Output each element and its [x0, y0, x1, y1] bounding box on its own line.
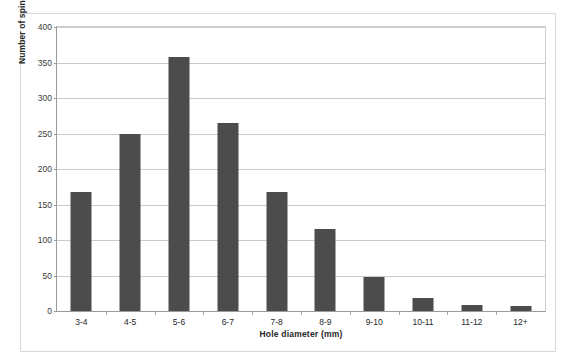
x-tick-label: 10-11: [412, 317, 433, 327]
x-tick-mark: [496, 311, 497, 315]
bar: [168, 57, 189, 311]
bar: [71, 192, 92, 311]
bar: [461, 305, 482, 311]
x-tick-label: 12+: [513, 317, 527, 327]
bar: [412, 298, 433, 311]
bar-slot: 11-12: [447, 27, 496, 311]
bar: [510, 306, 531, 311]
x-tick-mark: [350, 311, 351, 315]
x-axis-title: Hole diameter (mm): [56, 329, 546, 339]
y-tick-label-200: 200: [38, 164, 52, 174]
x-tick-mark: [203, 311, 204, 315]
y-tick-mark-0: [54, 311, 57, 312]
y-tick-label-150: 150: [38, 200, 52, 210]
x-tick-mark: [399, 311, 400, 315]
y-axis-title: Number of spindle whorls: [17, 0, 27, 64]
bar-slot: 6-7: [203, 27, 252, 311]
bar: [364, 277, 385, 311]
y-tick-label-400: 400: [38, 22, 52, 32]
x-tick-mark: [447, 311, 448, 315]
bar: [120, 134, 141, 311]
bar-slot: 4-5: [106, 27, 155, 311]
y-tick-label-100: 100: [38, 235, 52, 245]
x-tick-mark: [155, 311, 156, 315]
x-tick-label: 4-5: [124, 317, 136, 327]
x-tick-label: 5-6: [173, 317, 185, 327]
bar: [315, 229, 336, 311]
y-tick-label-250: 250: [38, 129, 52, 139]
bar-slot: 9-10: [350, 27, 399, 311]
y-axis-title-text: Number of spindle whorls: [17, 0, 27, 64]
bar-series: 3-44-55-66-77-88-99-1010-1111-1212+: [57, 27, 545, 311]
x-tick-label: 9-10: [366, 317, 383, 327]
x-tick-mark: [301, 311, 302, 315]
y-tick-label-350: 350: [38, 58, 52, 68]
x-tick-label: 11-12: [461, 317, 482, 327]
bar: [217, 123, 238, 311]
y-tick-label-50: 50: [43, 271, 52, 281]
x-tick-label: 3-4: [75, 317, 87, 327]
x-tick-label: 6-7: [222, 317, 234, 327]
bar-slot: 7-8: [252, 27, 301, 311]
chart-figure: Number of spindle whorls 050100150200250…: [20, 13, 556, 352]
y-tick-label-300: 300: [38, 93, 52, 103]
bar-slot: 5-6: [155, 27, 204, 311]
bar-slot: 8-9: [301, 27, 350, 311]
bar: [266, 192, 287, 311]
bar-slot: 3-4: [57, 27, 106, 311]
plot-area: 050100150200250300350400 3-44-55-66-77-8…: [56, 26, 546, 312]
bar-slot: 10-11: [399, 27, 448, 311]
x-tick-mark: [252, 311, 253, 315]
x-tick-label: 8-9: [319, 317, 331, 327]
x-tick-label: 7-8: [270, 317, 282, 327]
bar-slot: 12+: [496, 27, 545, 311]
x-tick-mark: [106, 311, 107, 315]
y-tick-label-0: 0: [47, 306, 52, 316]
